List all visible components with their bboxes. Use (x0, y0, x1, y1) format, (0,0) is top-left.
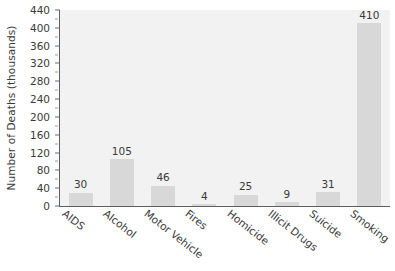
y-tick-label: 40 (37, 183, 50, 194)
y-tick-mark-minor (55, 179, 58, 180)
bar[interactable] (234, 195, 258, 206)
y-tick-label: 120 (30, 147, 50, 158)
bar[interactable] (110, 159, 134, 206)
y-tick-mark-minor (55, 18, 58, 19)
y-tick-mark-minor (55, 125, 58, 126)
bar-value-label: 4 (192, 191, 216, 202)
y-tick-label: 320 (30, 58, 50, 69)
bars-layer: 3010546425931410 (60, 10, 390, 206)
bar-group[interactable]: 46 (151, 10, 175, 206)
x-tick-label: Alcohol (101, 208, 138, 240)
y-axis-title-text: Number of Deaths (thousands) (5, 25, 17, 190)
x-tick-label: Smoking (349, 208, 391, 244)
bar-group[interactable]: 4 (192, 10, 216, 206)
x-tick-label: Suicide (308, 208, 344, 240)
x-axis-tick-labels: AIDSAlcoholMotor VehicleFiresHomicideIll… (60, 208, 395, 271)
y-tick-label: 0 (43, 201, 50, 212)
bar-group[interactable]: 9 (275, 10, 299, 206)
bar-value-label: 410 (357, 10, 381, 21)
y-tick-mark-minor (55, 72, 58, 73)
y-tick-mark-minor (55, 108, 58, 109)
y-tick-label: 400 (30, 23, 50, 34)
y-axis-title: Number of Deaths (thousands) (0, 0, 22, 215)
y-tick-mark-minor (55, 90, 58, 91)
bar-chart: Number of Deaths (thousands) 04080120160… (0, 0, 395, 271)
bar-group[interactable]: 30 (69, 10, 93, 206)
bar-group[interactable]: 105 (110, 10, 134, 206)
y-axis-tick-labels: 04080120160200240280320360400440 (22, 10, 53, 206)
x-tick-label: AIDS (60, 208, 86, 232)
bar[interactable] (69, 193, 93, 206)
y-tick-label: 440 (30, 5, 50, 16)
bar[interactable] (357, 23, 381, 206)
y-tick-label: 280 (30, 76, 50, 87)
y-tick-label: 240 (30, 94, 50, 105)
bar-value-label: 31 (316, 179, 340, 190)
x-tick-label: Homicide (225, 208, 270, 247)
y-tick-mark-minor (55, 143, 58, 144)
y-tick-label: 80 (37, 165, 50, 176)
bar-group[interactable]: 31 (316, 10, 340, 206)
y-tick-mark-minor (55, 36, 58, 37)
bar[interactable] (192, 204, 216, 206)
y-tick-label: 360 (30, 40, 50, 51)
bar-group[interactable]: 25 (234, 10, 258, 206)
bar-value-label: 30 (69, 179, 93, 190)
bar-value-label: 25 (234, 181, 258, 192)
bar-value-label: 46 (151, 172, 175, 183)
y-tick-label: 200 (30, 112, 50, 123)
bar-value-label: 105 (110, 146, 134, 157)
y-tick-mark-minor (55, 161, 58, 162)
bar-value-label: 9 (275, 189, 299, 200)
y-tick-label: 160 (30, 129, 50, 140)
y-tick-mark-minor (55, 197, 58, 198)
x-tick-label: Fires (184, 208, 210, 231)
bar[interactable] (316, 192, 340, 206)
bar[interactable] (275, 202, 299, 206)
bar-group[interactable]: 410 (357, 10, 381, 206)
y-tick-mark-minor (55, 54, 58, 55)
bar[interactable] (151, 186, 175, 206)
